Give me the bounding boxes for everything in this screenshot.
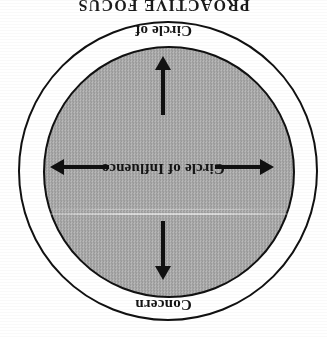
scanned-figure: PROACTIVE FOCUS Concern Circle of Circle… xyxy=(0,0,327,337)
arrow-left-shaft xyxy=(215,165,263,169)
arrow-down-shaft xyxy=(161,67,165,115)
figure-title: PROACTIVE FOCUS xyxy=(0,0,327,14)
circle-of-concern-label-concern: Concern xyxy=(0,296,327,313)
arrow-right-shaft xyxy=(61,165,109,169)
scan-artifact-line xyxy=(45,213,293,215)
arrow-up-shaft xyxy=(161,221,165,269)
circle-of-concern-label-circle-of: Circle of xyxy=(0,22,327,39)
arrow-right-head xyxy=(50,159,64,175)
arrow-up-icon xyxy=(154,221,172,279)
arrow-right-icon xyxy=(51,158,109,176)
arrow-left-head xyxy=(260,159,274,175)
arrow-left-icon xyxy=(215,158,273,176)
arrow-down-icon xyxy=(154,57,172,115)
arrow-up-head xyxy=(155,266,171,280)
arrow-down-head xyxy=(155,56,171,70)
scan-artifact-line-secondary xyxy=(45,209,293,210)
